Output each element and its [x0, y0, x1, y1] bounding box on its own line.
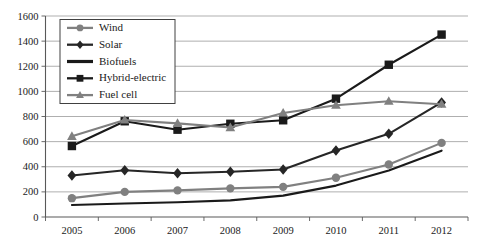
y-axis-tick-label: 1000 — [18, 86, 39, 97]
legend-item-label: Hybrid-electric — [99, 71, 166, 83]
data-point-marker — [279, 183, 287, 191]
x-axis-tick-label: 2006 — [114, 225, 135, 236]
x-axis-tick-label: 2005 — [61, 225, 82, 236]
y-axis-tick-label: 1400 — [18, 36, 39, 47]
y-axis-tick-label: 1200 — [18, 61, 39, 72]
legend-item-label: Solar — [99, 38, 123, 50]
data-point-marker — [385, 61, 393, 69]
legend-item-label: Fuel cell — [99, 88, 137, 100]
data-point-marker — [437, 139, 445, 147]
data-point-marker — [385, 160, 393, 168]
x-axis-tick-label: 2012 — [431, 225, 452, 236]
y-axis-tick-label: 200 — [23, 186, 39, 197]
data-point-marker — [68, 194, 76, 202]
legend-swatch-marker — [77, 25, 84, 32]
data-point-marker — [226, 184, 234, 192]
x-axis-tick-label: 2008 — [220, 225, 241, 236]
y-axis-tick-label: 800 — [23, 111, 39, 122]
data-point-marker — [68, 142, 76, 150]
data-point-marker — [279, 116, 287, 124]
chart-canvas: 02004006008001000120014001600 2005200620… — [0, 0, 479, 251]
data-point-marker — [121, 188, 129, 196]
x-axis-tick-label: 2007 — [167, 225, 188, 236]
y-axis-tick-label: 1600 — [18, 11, 39, 22]
legend-item-label: Biofuels — [99, 55, 136, 67]
chart-legend[interactable]: WindSolarBiofuelsHybrid-electricFuel cel… — [60, 20, 175, 104]
x-axis-tick-label: 2011 — [378, 225, 399, 236]
y-axis-tick-label: 600 — [23, 136, 39, 147]
data-point-marker — [173, 186, 181, 194]
data-point-marker — [437, 30, 445, 38]
y-axis-tick-label: 400 — [23, 161, 39, 172]
x-axis-tick-label: 2009 — [273, 225, 294, 236]
legend-swatch-marker — [77, 75, 84, 82]
x-axis-tick-label: 2010 — [325, 225, 346, 236]
legend-item-label: Wind — [99, 21, 123, 33]
line-chart: 02004006008001000120014001600 2005200620… — [0, 0, 479, 251]
y-axis-tick-label: 0 — [33, 212, 38, 223]
data-point-marker — [332, 174, 340, 182]
